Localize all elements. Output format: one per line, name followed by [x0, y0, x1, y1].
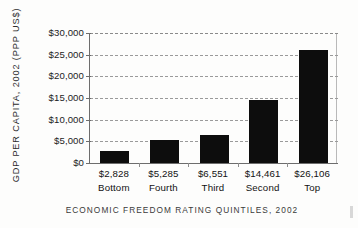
y-axis-tick	[86, 98, 91, 99]
bar	[150, 140, 179, 163]
y-axis-title: GDP PER CAPITA, 2002 (PPP US$)	[8, 0, 24, 190]
y-axis-tick-label: $30,000	[32, 27, 84, 38]
x-axis-label-group: $2,828Bottom	[86, 167, 142, 195]
bar	[100, 151, 129, 163]
bar	[299, 50, 328, 163]
y-axis-tick-label: $5,000	[32, 135, 84, 146]
x-axis-category-label: Third	[185, 180, 241, 195]
y-axis-tick-label: $15,000	[32, 92, 84, 103]
bar-value-label: $14,461	[235, 167, 291, 180]
x-axis-category-label: Fourth	[135, 180, 191, 195]
x-axis-category-label: Top	[284, 180, 340, 195]
x-axis-category-label: Second	[235, 180, 291, 195]
plot-area	[89, 33, 337, 163]
y-axis-tick-label: $10,000	[32, 114, 84, 125]
bar-value-label: $26,106	[284, 167, 340, 180]
x-axis-label-group: $26,106Top	[284, 167, 340, 195]
y-axis-tick-label: $20,000	[32, 70, 84, 81]
y-axis-tick	[86, 120, 91, 121]
chart-figure: GDP PER CAPITA, 2002 (PPP US$) $30,000$2…	[0, 0, 358, 228]
bar	[200, 135, 229, 163]
y-axis-tick	[86, 55, 91, 56]
y-axis-tick	[86, 76, 91, 77]
y-axis-tick-labels: $30,000$25,000$20,000$15,000$10,000$5,00…	[30, 33, 84, 163]
x-axis-category-labels: $2,828Bottom$5,285Fourth$6,551Third$14,4…	[89, 167, 338, 201]
x-axis-label-group: $14,461Second	[235, 167, 291, 195]
x-axis-category-label: Bottom	[86, 180, 142, 195]
x-axis-title: ECONOMIC FREEDOM RATING QUINTILES, 2002	[47, 205, 317, 215]
scan-artifact	[350, 206, 353, 218]
y-axis-tick-label: $0	[32, 157, 84, 168]
y-axis-tick	[86, 141, 91, 142]
bar-value-label: $6,551	[185, 167, 241, 180]
x-axis-line	[89, 163, 338, 164]
y-axis-tick-label: $25,000	[32, 49, 84, 60]
bar-value-label: $5,285	[135, 167, 191, 180]
bar-value-label: $2,828	[86, 167, 142, 180]
x-axis-label-group: $5,285Fourth	[135, 167, 191, 195]
bar	[249, 100, 278, 163]
x-axis-label-group: $6,551Third	[185, 167, 241, 195]
gridline	[90, 33, 338, 34]
y-axis-tick	[86, 33, 91, 34]
